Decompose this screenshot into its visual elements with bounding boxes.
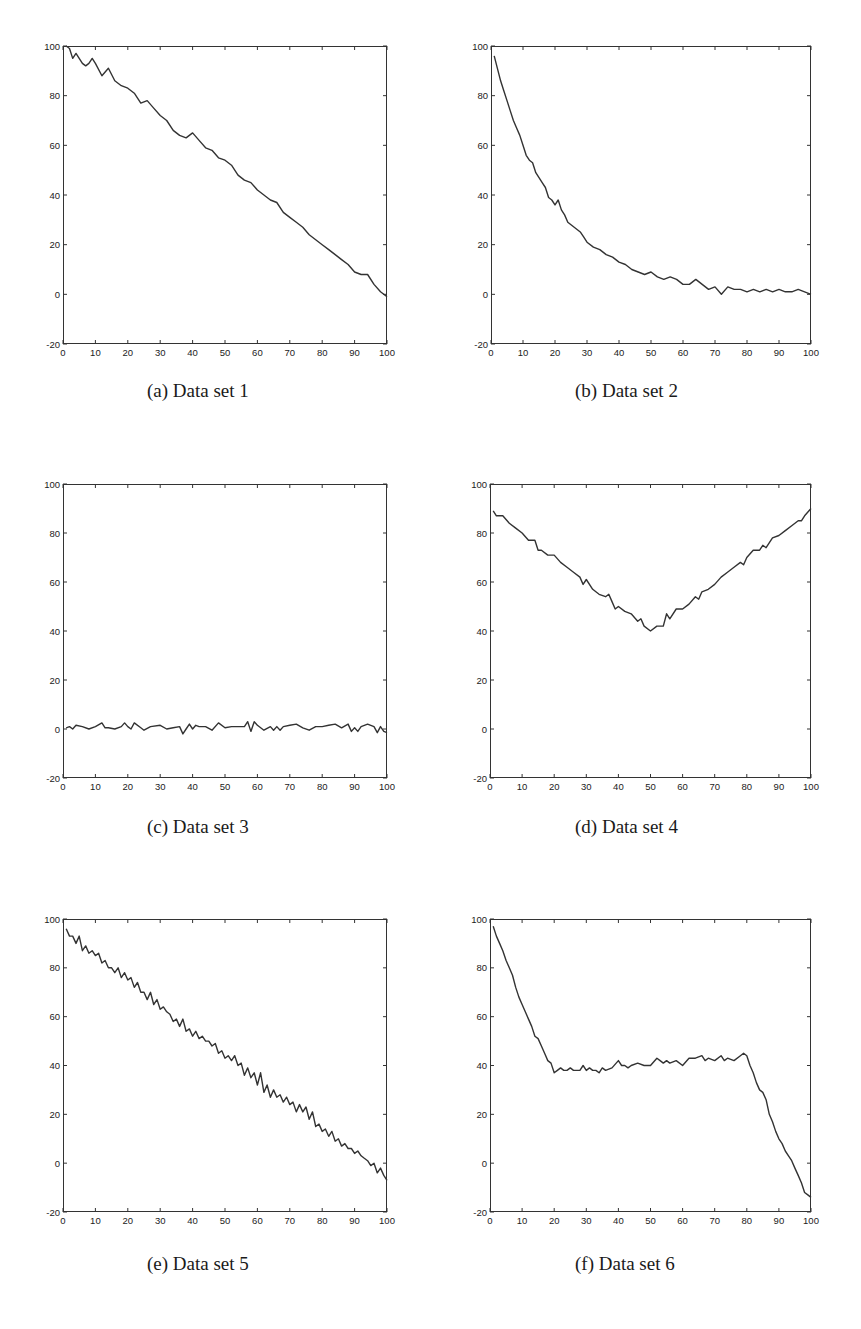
caption-c: (c) Data set 3 [147, 816, 249, 838]
line-plot: 0102030405060708090100-20020406080100 [63, 919, 387, 1212]
y-tick-label: 80 [49, 962, 60, 973]
y-tick-label: 40 [477, 190, 488, 201]
x-tick-label: 0 [60, 1215, 65, 1226]
x-tick-label: 60 [677, 781, 688, 792]
line-plot: 0102030405060708090100-20020406080100 [63, 46, 387, 344]
x-tick-label: 100 [803, 347, 819, 358]
y-tick-label: -20 [46, 773, 60, 784]
data-series-line [493, 509, 811, 632]
x-tick-label: 80 [317, 347, 328, 358]
y-tick-label: 20 [49, 239, 60, 250]
x-tick-label: 30 [581, 781, 592, 792]
x-tick-label: 40 [614, 347, 625, 358]
y-tick-label: -20 [473, 1207, 487, 1218]
x-tick-label: 100 [379, 781, 395, 792]
y-tick-label: 0 [482, 724, 487, 735]
x-tick-label: 90 [349, 781, 360, 792]
panel-b: 0102030405060708090100-20020406080100 [491, 46, 811, 344]
axes-frame [64, 920, 387, 1212]
panel-c: 0102030405060708090100-20020406080100 [63, 484, 387, 778]
x-tick-label: 30 [155, 781, 166, 792]
y-tick-label: 40 [476, 626, 487, 637]
x-tick-label: 80 [742, 781, 753, 792]
y-tick-label: 40 [49, 190, 60, 201]
panel-e: 0102030405060708090100-20020406080100 [63, 919, 387, 1212]
y-tick-label: -20 [46, 1207, 60, 1218]
x-tick-label: 100 [379, 347, 395, 358]
y-tick-label: 80 [476, 962, 487, 973]
caption-d: (d) Data set 4 [575, 816, 678, 838]
x-tick-label: 10 [518, 347, 529, 358]
panel-a: 0102030405060708090100-20020406080100 [63, 46, 387, 344]
y-tick-label: 0 [482, 1158, 487, 1169]
y-tick-label: 20 [476, 1109, 487, 1120]
x-tick-label: 50 [645, 1215, 656, 1226]
x-tick-label: 90 [349, 347, 360, 358]
y-tick-label: 20 [49, 1109, 60, 1120]
x-tick-label: 50 [220, 781, 231, 792]
y-tick-label: 100 [44, 914, 60, 925]
line-plot: 0102030405060708090100-20020406080100 [491, 46, 811, 344]
y-tick-label: -20 [474, 339, 488, 350]
x-tick-label: 50 [646, 347, 657, 358]
x-tick-label: 100 [379, 1215, 395, 1226]
y-tick-label: 20 [476, 675, 487, 686]
x-tick-label: 40 [187, 781, 198, 792]
x-tick-label: 70 [285, 781, 296, 792]
line-plot: 0102030405060708090100-20020406080100 [63, 484, 387, 778]
y-tick-label: 60 [476, 577, 487, 588]
x-tick-label: 60 [252, 781, 263, 792]
x-tick-label: 80 [742, 347, 753, 358]
x-tick-label: 70 [285, 347, 296, 358]
caption-a: (a) Data set 1 [147, 380, 249, 402]
x-tick-label: 50 [645, 781, 656, 792]
x-tick-label: 100 [803, 781, 819, 792]
y-tick-label: 40 [49, 626, 60, 637]
x-tick-label: 0 [487, 1215, 492, 1226]
line-plot: 0102030405060708090100-20020406080100 [490, 484, 811, 778]
x-tick-label: 90 [349, 1215, 360, 1226]
x-tick-label: 10 [517, 781, 528, 792]
x-tick-label: 50 [220, 347, 231, 358]
y-tick-label: 60 [49, 1011, 60, 1022]
x-tick-label: 20 [123, 781, 134, 792]
x-tick-label: 20 [549, 781, 560, 792]
x-tick-label: 50 [220, 1215, 231, 1226]
x-tick-label: 0 [60, 781, 65, 792]
x-tick-label: 40 [613, 1215, 624, 1226]
y-tick-label: 100 [44, 479, 60, 490]
y-tick-label: 100 [471, 914, 487, 925]
y-tick-label: 80 [476, 528, 487, 539]
y-tick-label: 80 [49, 528, 60, 539]
x-tick-label: 30 [155, 347, 166, 358]
caption-b: (b) Data set 2 [575, 380, 678, 402]
x-tick-label: 30 [155, 1215, 166, 1226]
x-tick-label: 60 [678, 347, 689, 358]
y-tick-label: -20 [473, 773, 487, 784]
axes-frame [492, 47, 811, 344]
panel-d: 0102030405060708090100-20020406080100 [490, 484, 811, 778]
x-tick-label: 70 [285, 1215, 296, 1226]
y-tick-label: 80 [477, 90, 488, 101]
x-tick-label: 20 [549, 1215, 560, 1226]
x-tick-label: 70 [709, 1215, 720, 1226]
axes-frame [64, 47, 387, 344]
y-tick-label: 100 [471, 479, 487, 490]
axes-frame [64, 485, 387, 778]
y-tick-label: 0 [55, 289, 60, 300]
y-tick-label: 60 [476, 1011, 487, 1022]
y-tick-label: 40 [49, 1060, 60, 1071]
x-tick-label: 0 [60, 347, 65, 358]
x-tick-label: 90 [774, 781, 785, 792]
x-tick-label: 10 [517, 1215, 528, 1226]
x-tick-label: 10 [90, 347, 101, 358]
y-tick-label: 60 [49, 140, 60, 151]
y-tick-label: 100 [472, 41, 488, 52]
x-tick-label: 0 [488, 347, 493, 358]
x-tick-label: 10 [90, 1215, 101, 1226]
x-tick-label: 70 [710, 347, 721, 358]
x-tick-label: 20 [123, 347, 134, 358]
x-tick-label: 60 [252, 1215, 263, 1226]
x-tick-label: 40 [187, 1215, 198, 1226]
y-tick-label: 0 [55, 724, 60, 735]
